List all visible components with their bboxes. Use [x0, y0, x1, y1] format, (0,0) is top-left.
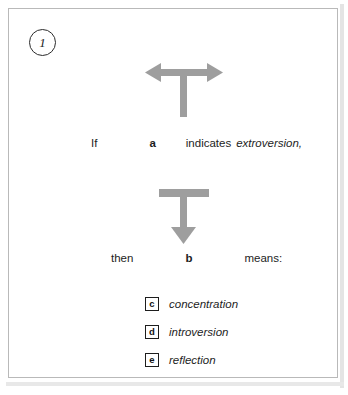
option-key-box-d[interactable]: d [145, 325, 159, 339]
conclusion-then-word: then [111, 253, 133, 265]
option-label-e[interactable]: reflection [169, 354, 216, 366]
introversion-symbol-icon [143, 187, 225, 247]
sheet-edge-shadow-bottom [6, 382, 344, 386]
item-frame: 1 [8, 8, 338, 378]
option-label-c[interactable]: concentration [169, 298, 238, 310]
scanned-sheet: 1 [0, 0, 348, 395]
premise-key-letter: a [149, 138, 155, 150]
conclusion-statement: thenbmeans: [111, 253, 282, 265]
option-row-d[interactable]: d introversion [145, 324, 238, 340]
sheet-edge-shadow-right [340, 4, 344, 388]
option-key-box-e[interactable]: e [145, 353, 159, 367]
option-key-box-c[interactable]: c [145, 297, 159, 311]
item-number-text: 1 [39, 36, 46, 49]
conclusion-verb: means: [244, 253, 282, 265]
premise-statement: Ifaindicatesextroversion, [91, 138, 302, 150]
premise-if-word: If [91, 138, 97, 150]
item-number-badge: 1 [29, 29, 56, 56]
option-row-c[interactable]: c concentration [145, 296, 238, 312]
extroversion-symbol-icon [143, 53, 225, 119]
conclusion-key-letter: b [185, 253, 192, 265]
premise-verb: indicates [186, 138, 231, 150]
answer-options-list: c concentration d introversion e reflect… [145, 296, 238, 380]
premise-term: extroversion, [236, 138, 302, 150]
option-label-d[interactable]: introversion [169, 326, 228, 338]
option-row-e[interactable]: e reflection [145, 352, 238, 368]
